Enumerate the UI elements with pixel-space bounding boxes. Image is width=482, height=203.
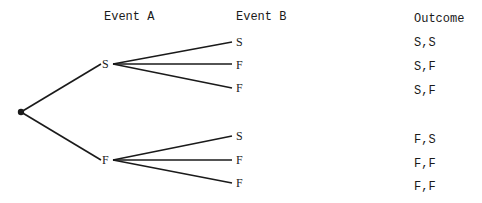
branch-line [113,42,232,64]
branch-line [21,64,101,112]
header-outcome: Outcome [414,12,464,26]
tree-branches [0,0,482,203]
event-a-node-success: S [102,57,109,71]
header-event-b: Event B [236,10,286,24]
event-a-node-failure: F [102,153,109,167]
event-b-node: F [236,58,243,72]
branch-line [113,64,232,88]
branch-line [113,160,232,183]
outcome-item: S,S [414,36,436,50]
outcome-item: S,F [414,84,436,98]
branch-line [113,136,232,160]
tree-diagram: Event A Event B Outcome S F S F F S F F … [0,0,482,203]
header-event-a: Event A [104,10,154,24]
event-b-node: S [236,129,243,143]
branch-line [21,112,101,160]
event-b-node: S [236,35,243,49]
event-b-node: F [236,176,243,190]
outcome-item: F,S [414,133,436,147]
outcome-item: F,F [414,157,436,171]
outcome-item: F,F [414,180,436,194]
event-b-node: F [236,153,243,167]
root-node-dot [18,109,24,115]
event-b-node: F [236,81,243,95]
outcome-item: S,F [414,60,436,74]
